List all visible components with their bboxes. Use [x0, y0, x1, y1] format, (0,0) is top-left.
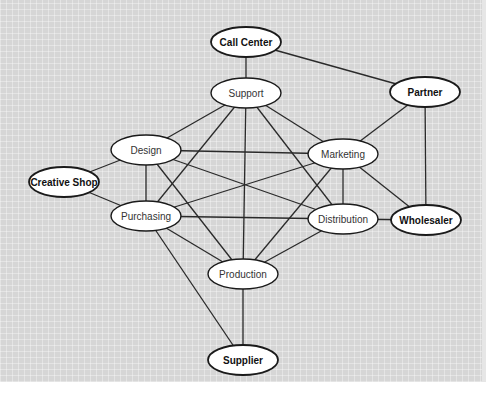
node-distribution[interactable]: Distribution — [308, 204, 378, 234]
node-marketing[interactable]: Marketing — [308, 139, 378, 169]
node-partner[interactable]: Partner — [390, 77, 460, 107]
node-label: Production — [219, 269, 267, 280]
node-design[interactable]: Design — [111, 135, 181, 165]
node-label: Support — [228, 88, 263, 99]
node-purchasing[interactable]: Purchasing — [111, 201, 181, 231]
node-production[interactable]: Production — [208, 259, 278, 289]
network-diagram: Call CenterSupportPartnerDesignMarketing… — [0, 0, 486, 397]
node-creative-shop[interactable]: Creative Shop — [29, 167, 99, 197]
node-call-center[interactable]: Call Center — [211, 27, 281, 57]
diagram-canvas: Call CenterSupportPartnerDesignMarketing… — [0, 0, 486, 397]
node-label: Purchasing — [121, 211, 171, 222]
node-label: Design — [130, 145, 161, 156]
node-label: Creative Shop — [30, 177, 97, 188]
node-label: Call Center — [220, 37, 273, 48]
node-label: Partner — [407, 87, 442, 98]
node-label: Distribution — [318, 214, 368, 225]
node-label: Marketing — [321, 149, 365, 160]
nodes-layer: Call CenterSupportPartnerDesignMarketing… — [29, 27, 461, 375]
node-label: Supplier — [223, 355, 263, 366]
node-wholesaler[interactable]: Wholesaler — [391, 205, 461, 235]
node-support[interactable]: Support — [211, 78, 281, 108]
edge-partner-wholesaler — [425, 92, 426, 220]
node-label: Wholesaler — [399, 215, 452, 226]
node-supplier[interactable]: Supplier — [208, 345, 278, 375]
